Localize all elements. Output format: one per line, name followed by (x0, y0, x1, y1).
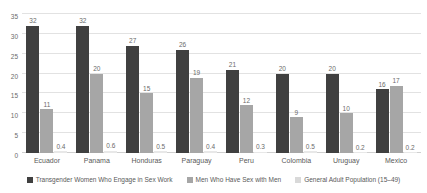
bar-slot: 0.2 (354, 14, 367, 153)
bar-slot: 16 (376, 14, 389, 153)
bar-value-label: 0.5 (156, 144, 165, 151)
legend-label: Transgender Women Who Engage in Sex Work (36, 177, 173, 184)
bar-value-label: 27 (129, 38, 136, 45)
bar-group: 27150.5 (122, 14, 172, 153)
x-axis-category-label: Colombia (271, 155, 321, 167)
bar-group: 2090.5 (271, 14, 321, 153)
bar-slot: 27 (126, 14, 139, 153)
bar[interactable]: 32 (76, 26, 89, 153)
bar-value-label: 0.3 (256, 144, 265, 151)
bar-value-label: 0.6 (106, 143, 115, 150)
bar-value-label: 20 (93, 66, 100, 73)
bar-value-label: 21 (229, 62, 236, 69)
bar[interactable]: 0.2 (404, 152, 417, 153)
bar-slot: 21 (226, 14, 239, 153)
bar-slot: 20 (326, 14, 339, 153)
bar-value-label: 0.4 (206, 144, 215, 151)
bar-value-label: 32 (29, 18, 36, 25)
bar[interactable]: 0.4 (204, 151, 217, 153)
bar[interactable]: 0.5 (304, 151, 317, 153)
bar-group: 26190.4 (172, 14, 222, 153)
bar[interactable]: 26 (176, 50, 189, 153)
bar-slot: 0.2 (404, 14, 417, 153)
bar-value-label: 17 (392, 78, 399, 85)
bar-value-label: 20 (329, 66, 336, 73)
bar[interactable]: 0.4 (54, 151, 67, 153)
bar-groups: 32110.432200.627150.526190.421120.32090.… (22, 14, 421, 153)
legend-swatch-icon (295, 177, 301, 183)
bar[interactable]: 9 (290, 117, 303, 153)
bar-value-label: 19 (193, 70, 200, 77)
bar-slot: 26 (176, 14, 189, 153)
bar[interactable]: 20 (326, 74, 339, 153)
legend-swatch-icon (27, 177, 33, 183)
bar-slot: 32 (26, 14, 39, 153)
bar-value-label: 0.2 (406, 145, 415, 152)
bar-value-label: 20 (279, 66, 286, 73)
bar-value-label: 15 (143, 86, 150, 93)
y-axis-tick-labels: 05101520253035 (0, 14, 20, 153)
bar-slot: 11 (40, 14, 53, 153)
bar-group: 20100.2 (321, 14, 371, 153)
legend-label: General Adult Population (15–49) (304, 177, 400, 184)
bar-slot: 0.5 (304, 14, 317, 153)
legend-item[interactable]: Transgender Women Who Engage in Sex Work (27, 177, 173, 184)
bar-slot: 9 (290, 14, 303, 153)
legend-item[interactable]: General Adult Population (15–49) (295, 177, 400, 184)
bar-value-label: 32 (79, 18, 86, 25)
bar-value-label: 16 (378, 82, 385, 89)
bar-slot: 0.4 (54, 14, 67, 153)
bar[interactable]: 12 (240, 105, 253, 153)
x-axis-category-label: Paraguay (172, 155, 222, 167)
bar-slot: 0.5 (154, 14, 167, 153)
bar[interactable]: 20 (276, 74, 289, 153)
chart-legend: Transgender Women Who Engage in Sex Work… (0, 173, 427, 187)
bar-slot: 17 (390, 14, 403, 153)
bar-value-label: 12 (243, 98, 250, 105)
bar-value-label: 0.2 (356, 145, 365, 152)
bar[interactable]: 32 (26, 26, 39, 153)
bar-slot: 0.3 (254, 14, 267, 153)
x-axis-category-label: Panama (72, 155, 122, 167)
bar-group: 32200.6 (72, 14, 122, 153)
bar-group: 32110.4 (22, 14, 72, 153)
bar-slot: 20 (276, 14, 289, 153)
bar-value-label: 26 (179, 42, 186, 49)
bar-value-label: 10 (343, 106, 350, 113)
bar[interactable]: 0.6 (104, 151, 117, 153)
bar-value-label: 0.5 (306, 144, 315, 151)
bar-group: 16170.2 (371, 14, 421, 153)
legend-item[interactable]: Men Who Have Sex with Men (187, 177, 282, 184)
bar-value-label: 11 (44, 102, 51, 109)
bar[interactable]: 10 (340, 113, 353, 153)
bar-slot: 10 (340, 14, 353, 153)
bar[interactable]: 15 (140, 93, 153, 153)
bar[interactable]: 20 (90, 74, 103, 153)
plot-area: 32110.432200.627150.526190.421120.32090.… (22, 14, 421, 153)
legend-label: Men Who Have Sex with Men (196, 177, 282, 184)
x-axis-category-labels: EcuadorPanamaHondurasParaguayPeruColombi… (22, 155, 421, 167)
bar-slot: 0.6 (104, 14, 117, 153)
bar[interactable]: 0.3 (254, 152, 267, 153)
bar-slot: 12 (240, 14, 253, 153)
x-axis-category-label: Peru (222, 155, 272, 167)
bar[interactable]: 17 (390, 86, 403, 154)
x-axis-category-label: Ecuador (22, 155, 72, 167)
bar-value-label: 9 (295, 110, 299, 117)
bar[interactable]: 27 (126, 46, 139, 153)
bar-value-label: 0.4 (56, 144, 65, 151)
x-axis-category-label: Uruguay (321, 155, 371, 167)
bar[interactable]: 19 (190, 78, 203, 153)
legend-swatch-icon (187, 177, 193, 183)
bar[interactable]: 0.2 (354, 152, 367, 153)
bar-slot: 15 (140, 14, 153, 153)
x-axis-category-label: Honduras (122, 155, 172, 167)
bar[interactable]: 16 (376, 89, 389, 153)
bar-slot: 0.4 (204, 14, 217, 153)
bar[interactable]: 11 (40, 109, 53, 153)
bar-slot: 20 (90, 14, 103, 153)
bar[interactable]: 0.5 (154, 151, 167, 153)
bar[interactable]: 21 (226, 70, 239, 153)
bar-slot: 19 (190, 14, 203, 153)
bar-slot: 32 (76, 14, 89, 153)
